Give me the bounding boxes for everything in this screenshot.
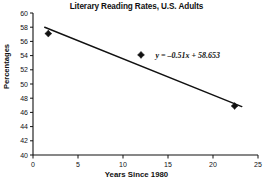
y-axis-tick-label: 54: [20, 52, 28, 59]
trendline-segment: [45, 27, 242, 106]
y-axis-tick-label: 56: [20, 38, 28, 45]
x-axis-tick-label: 10: [119, 161, 127, 168]
y-axis: 4042444648505254565860: [20, 10, 33, 159]
x-axis-tick-label: 20: [209, 161, 217, 168]
x-axis-tick-label: 15: [164, 161, 172, 168]
equation-label: y = –0.51x + 58.653: [154, 51, 220, 60]
trendline: [45, 27, 242, 106]
y-axis-tick-label: 46: [20, 109, 28, 116]
plot-area: 4042444648505254565860 0510152025 y = –0…: [0, 0, 273, 183]
y-axis-tick-label: 60: [20, 10, 28, 17]
y-axis-tick-label: 40: [20, 152, 28, 159]
y-axis-tick-label: 44: [20, 123, 28, 130]
y-axis-tick-label: 52: [20, 66, 28, 73]
y-axis-tick-label: 48: [20, 95, 28, 102]
data-point: [45, 30, 52, 37]
y-axis-tick-label: 42: [20, 137, 28, 144]
equation-annotation: y = –0.51x + 58.653: [154, 51, 220, 60]
data-point: [231, 103, 238, 110]
x-axis-tick-label: 5: [76, 161, 80, 168]
x-axis-tick-label: 0: [31, 161, 35, 168]
data-points: [45, 30, 238, 109]
x-axis: 0510152025: [31, 155, 262, 168]
y-axis-tick-label: 58: [20, 24, 28, 31]
x-axis-tick-label: 25: [254, 161, 262, 168]
chart-figure: Literary Reading Rates, U.S. Adults Perc…: [0, 0, 273, 183]
data-point: [138, 51, 145, 58]
y-axis-tick-label: 50: [20, 81, 28, 88]
